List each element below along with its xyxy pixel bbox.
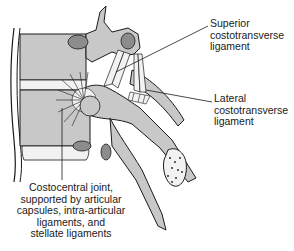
facet-upper-right (121, 33, 135, 49)
label-line: Lateral (214, 93, 288, 105)
rib-head (80, 96, 100, 116)
facet-upper-left (68, 35, 88, 49)
anterior-line (11, 28, 16, 182)
label-line: Costocentral joint, (6, 182, 136, 194)
label-line: capsules, intra-articular (6, 205, 136, 217)
label-line: ligament (214, 116, 288, 128)
label-line: ligament (210, 41, 284, 53)
label-line: stellate ligaments (6, 228, 136, 240)
rib-tubercle-articular (163, 149, 186, 186)
facet-lower (73, 141, 91, 151)
label-costocentral-joint: Costocentral joint, supported by articul… (6, 182, 136, 240)
label-line: Superior (210, 18, 284, 30)
facet-lower-right (101, 144, 111, 160)
label-lateral-costotransverse-ligament: Lateral costotransverse ligament (214, 93, 288, 128)
superior-costotransverse-ligament (104, 50, 146, 92)
label-superior-costotransverse-ligament: Superior costotransverse ligament (210, 18, 284, 53)
